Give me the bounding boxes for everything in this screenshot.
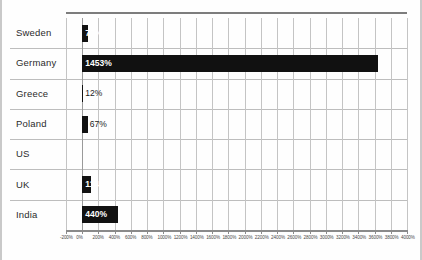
x-tick-label: 200%	[92, 235, 103, 240]
x-tick-label: 4000%	[401, 235, 415, 240]
x-tick	[82, 230, 83, 234]
bar-poland	[82, 116, 87, 133]
x-tick-label: 800%	[141, 235, 152, 240]
gridline	[326, 18, 327, 230]
gridline	[115, 18, 116, 230]
bar-value-label: 1453%	[82, 55, 111, 72]
x-tick	[98, 230, 99, 234]
x-tick	[261, 230, 262, 234]
x-tick	[358, 230, 359, 234]
gridline	[293, 18, 294, 230]
x-tick	[115, 230, 116, 234]
category-label-greece: Greece	[16, 88, 48, 99]
x-tick	[212, 230, 213, 234]
chart-frame: 77%1453%12%67%114%440% -200%0%200%400%60…	[0, 0, 422, 260]
gridline	[245, 18, 246, 230]
x-tick	[180, 230, 181, 234]
top-rule	[66, 12, 407, 14]
gridline	[131, 18, 132, 230]
category-label-poland: Poland	[16, 118, 47, 129]
x-tick	[391, 230, 392, 234]
bar-germany	[82, 55, 378, 72]
x-tick-label: 1600%	[206, 235, 220, 240]
category-label-sweden: Sweden	[16, 27, 52, 38]
x-tick-label: -200%	[60, 235, 73, 240]
x-tick	[147, 230, 148, 234]
category-label-us: US	[16, 148, 30, 159]
category-label-india: India	[16, 209, 38, 220]
x-tick-label: 2200%	[255, 235, 269, 240]
x-tick-label: 1400%	[190, 235, 204, 240]
category-label-uk: UK	[16, 179, 30, 190]
x-tick-label: 3600%	[369, 235, 383, 240]
x-tick-label: 1800%	[222, 235, 236, 240]
x-tick-label: 2400%	[271, 235, 285, 240]
x-tick	[277, 230, 278, 234]
x-tick-label: 600%	[125, 235, 136, 240]
gridline	[261, 18, 262, 230]
bar-value-label: 77%	[82, 25, 102, 42]
gridline	[147, 18, 148, 230]
bar-value-label: 67%	[90, 116, 107, 133]
gridline	[310, 18, 311, 230]
gridline	[196, 18, 197, 230]
bar-value-label: 12%	[85, 85, 102, 102]
gridline	[375, 18, 376, 230]
x-axis-line	[66, 230, 407, 232]
gridline	[391, 18, 392, 230]
category-label-germany: Germany	[16, 57, 56, 68]
x-tick-label: 1200%	[174, 235, 188, 240]
gridline	[407, 18, 408, 230]
x-tick-label: 3000%	[320, 235, 334, 240]
x-tick	[375, 230, 376, 234]
x-tick-label: 2800%	[304, 235, 318, 240]
x-tick-label: 0%	[76, 235, 82, 240]
gridline	[180, 18, 181, 230]
bar-greece	[82, 85, 83, 102]
x-tick	[131, 230, 132, 234]
x-tick	[228, 230, 229, 234]
gridline	[342, 18, 343, 230]
x-tick-label: 1000%	[157, 235, 171, 240]
x-tick-label: 2600%	[287, 235, 301, 240]
gridline	[228, 18, 229, 230]
x-tick-label: 3800%	[385, 235, 399, 240]
x-tick	[407, 230, 408, 234]
x-tick-label: 400%	[109, 235, 120, 240]
x-tick	[196, 230, 197, 234]
bar-value-label: 114%	[82, 176, 106, 193]
x-tick-label: 3400%	[352, 235, 366, 240]
gridline	[66, 18, 67, 230]
chart-inner: 77%1453%12%67%114%440% -200%0%200%400%60…	[10, 4, 416, 256]
gridline	[212, 18, 213, 230]
gridline	[358, 18, 359, 230]
gridline	[277, 18, 278, 230]
x-tick	[163, 230, 164, 234]
x-tick	[66, 230, 67, 234]
x-tick	[245, 230, 246, 234]
x-tick	[310, 230, 311, 234]
gridline	[163, 18, 164, 230]
bar-value-label: 440%	[82, 206, 107, 223]
x-tick-label: 3200%	[336, 235, 350, 240]
x-tick	[293, 230, 294, 234]
x-tick	[342, 230, 343, 234]
x-tick	[326, 230, 327, 234]
x-tick-label: 2000%	[239, 235, 253, 240]
plot-area: 77%1453%12%67%114%440%	[66, 18, 407, 230]
